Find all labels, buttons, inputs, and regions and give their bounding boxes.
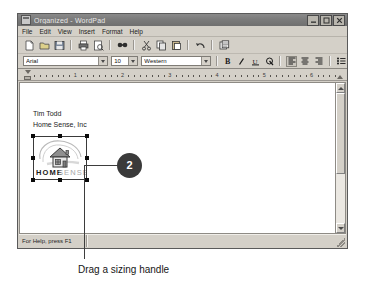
align-left-icon[interactable] xyxy=(286,56,297,67)
ruler-tick xyxy=(235,75,236,77)
ruler-tick xyxy=(81,75,82,77)
maximize-button[interactable] xyxy=(320,15,332,26)
formatbar-separator-3 xyxy=(329,56,331,66)
ruler-tick xyxy=(105,75,106,77)
ruler-tick xyxy=(34,75,35,77)
cut-icon[interactable] xyxy=(140,39,152,51)
ruler-tick xyxy=(158,75,159,77)
sizing-handle-n[interactable] xyxy=(58,134,62,138)
ruler-tick xyxy=(294,75,295,77)
resize-grip-icon[interactable] xyxy=(335,237,345,247)
new-icon[interactable] xyxy=(23,39,35,51)
bold-icon[interactable]: B xyxy=(223,56,234,67)
ruler-tick xyxy=(211,75,212,77)
bullets-icon[interactable] xyxy=(336,56,347,67)
ruler-mark-5: 5 xyxy=(263,72,266,78)
document-text-line-2: Home Sense, Inc xyxy=(33,121,87,128)
ruler-tick xyxy=(134,75,135,77)
print-icon[interactable] xyxy=(77,39,89,51)
wordpad-window: Organized - WordPad File Edit View Inser… xyxy=(17,13,348,249)
sizing-handle-w[interactable] xyxy=(31,156,35,160)
sizing-handle-e[interactable] xyxy=(85,156,89,160)
format-toolbar: Arial 10 Western B U xyxy=(18,54,347,69)
menu-item-file[interactable]: File xyxy=(22,28,32,35)
caption-leader-line xyxy=(84,165,85,259)
ruler-tick xyxy=(117,75,118,77)
print-preview-icon[interactable] xyxy=(92,39,104,51)
ruler-tick xyxy=(58,75,59,77)
minimize-button[interactable] xyxy=(307,15,319,26)
menu-item-view[interactable]: View xyxy=(58,28,72,35)
scroll-down-icon[interactable] xyxy=(336,223,345,233)
ruler-tick xyxy=(282,75,283,77)
vertical-scrollbar[interactable] xyxy=(335,82,346,234)
ruler-tick xyxy=(146,75,147,77)
toolbar-separator-3 xyxy=(133,40,135,50)
ruler-tick xyxy=(229,75,230,77)
ruler-tick xyxy=(93,75,94,77)
chevron-down-icon[interactable] xyxy=(201,57,210,65)
ruler-tick xyxy=(223,75,224,77)
undo-icon[interactable] xyxy=(194,39,206,51)
callout-leader-line xyxy=(84,165,120,166)
paste-icon[interactable] xyxy=(170,39,182,51)
standard-toolbar xyxy=(18,37,347,54)
close-button[interactable] xyxy=(333,15,345,26)
align-center-icon[interactable] xyxy=(300,56,311,67)
ruler-tick xyxy=(329,75,330,77)
window-title: Organized - WordPad xyxy=(34,17,307,24)
first-line-indent-marker[interactable] xyxy=(25,70,31,74)
selected-image-object[interactable]: HOME SENSE xyxy=(33,136,87,180)
date-time-icon[interactable] xyxy=(218,39,230,51)
sizing-handle-sw[interactable] xyxy=(31,178,35,182)
document-page[interactable]: Tim Todd Home Sense, Inc xyxy=(19,82,335,234)
scrollbar-track[interactable] xyxy=(336,93,345,223)
scroll-up-icon[interactable] xyxy=(336,83,345,93)
svg-text:SENSE: SENSE xyxy=(58,168,86,177)
ruler-tick xyxy=(300,75,301,77)
formatbar-separator-1 xyxy=(216,56,218,66)
chevron-down-icon[interactable] xyxy=(98,57,107,65)
script-select[interactable]: Western xyxy=(141,56,211,66)
ruler-tick xyxy=(99,75,100,77)
right-indent-marker[interactable] xyxy=(337,75,343,79)
menu-item-insert[interactable]: Insert xyxy=(79,28,95,35)
left-indent-marker[interactable] xyxy=(24,76,31,80)
align-right-icon[interactable] xyxy=(314,56,325,67)
ruler-tick xyxy=(63,75,64,77)
ruler-tick xyxy=(69,75,70,77)
copy-icon[interactable] xyxy=(155,39,167,51)
horizontal-ruler[interactable]: 123456 xyxy=(18,69,347,81)
ruler-tick xyxy=(87,75,88,77)
sizing-handle-se[interactable] xyxy=(85,178,89,182)
text-color-icon[interactable] xyxy=(264,56,275,67)
sizing-handle-s[interactable] xyxy=(58,178,62,182)
menu-item-help[interactable]: Help xyxy=(130,28,143,35)
italic-icon[interactable] xyxy=(237,56,248,67)
menu-item-edit[interactable]: Edit xyxy=(39,28,50,35)
font-family-select[interactable]: Arial xyxy=(23,56,108,66)
underline-icon[interactable]: U xyxy=(250,56,261,67)
font-family-value: Arial xyxy=(26,58,98,64)
font-size-select[interactable]: 10 xyxy=(111,56,138,66)
script-value: Western xyxy=(144,58,201,64)
save-icon[interactable] xyxy=(53,39,65,51)
ruler-mark-6: 6 xyxy=(310,72,313,78)
toolbar-separator-4 xyxy=(187,40,189,50)
scrollbar-thumb[interactable] xyxy=(336,93,345,174)
open-icon[interactable] xyxy=(38,39,50,51)
chevron-down-icon[interactable] xyxy=(128,57,137,65)
menu-item-format[interactable]: Format xyxy=(102,28,123,35)
sizing-handle-ne[interactable] xyxy=(85,134,89,138)
ruler-tick xyxy=(247,75,248,77)
title-bar[interactable]: Organized - WordPad xyxy=(18,14,347,26)
ruler-tick xyxy=(318,75,319,77)
sizing-handle-nw[interactable] xyxy=(31,134,35,138)
find-icon[interactable] xyxy=(116,39,128,51)
toolbar-separator-5 xyxy=(211,40,213,50)
svg-text:U: U xyxy=(253,57,258,65)
ruler-tick xyxy=(205,75,206,77)
home-sense-logo[interactable]: HOME SENSE xyxy=(33,136,87,180)
ruler-tick xyxy=(199,75,200,77)
callout-badge-2: 2 xyxy=(117,153,142,178)
